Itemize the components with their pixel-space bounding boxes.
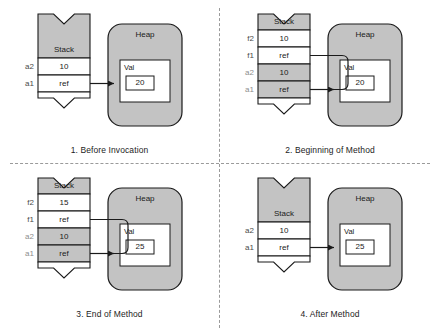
panel-caption: 1. Before Invocation [0, 145, 219, 155]
panel-before-invocation: StackHeapVal20a210a1ref1. Before Invocat… [0, 8, 219, 163]
heap-title: Heap [108, 30, 182, 39]
frame-label-f2: f2 [232, 34, 254, 43]
stack-title: Stack [258, 209, 310, 218]
frame-label-f1: f1 [232, 51, 254, 60]
panel-caption: 2. Beginning of Method [220, 145, 440, 155]
object-value: 25 [126, 242, 154, 251]
object-value: 20 [346, 78, 374, 87]
frame-label-a1: a1 [232, 243, 254, 252]
object-title: Val [344, 227, 354, 236]
frame-label-a2: a2 [232, 68, 254, 77]
stack-title: Stack [38, 45, 90, 54]
horizontal-divider [10, 163, 430, 164]
heap-title: Heap [328, 30, 402, 39]
object-value: 20 [126, 78, 154, 87]
object-title: Val [344, 63, 354, 72]
frame-label-a1: a1 [12, 249, 34, 258]
frame-label-a2: a2 [12, 232, 34, 241]
frame-value-a1: ref [258, 243, 310, 252]
frame-value-a1: ref [258, 85, 310, 94]
figure-canvas: StackHeapVal20a210a1ref1. Before Invocat… [0, 0, 440, 332]
frame-label-a1: a1 [232, 85, 254, 94]
frame-value-f1: ref [258, 51, 310, 60]
heap-title: Heap [108, 194, 182, 203]
stack-title: Stack [38, 181, 90, 190]
panel-caption: 4. After Method [220, 309, 440, 319]
frame-label-a2: a2 [232, 226, 254, 235]
frame-value-f2: 10 [258, 34, 310, 43]
frame-value-f2: 15 [38, 198, 90, 207]
object-title: Val [124, 227, 134, 236]
frame-label-f2: f2 [12, 198, 34, 207]
frame-value-a2: 10 [38, 62, 90, 71]
panel-caption: 3. End of Method [0, 309, 219, 319]
frame-value-f1: ref [38, 215, 90, 224]
panel-end-of-method: StackHeapVal25f215f1refa210a1ref3. End o… [0, 172, 219, 327]
heap-title: Heap [328, 194, 402, 203]
frame-value-a2: 10 [38, 232, 90, 241]
frame-value-a1: ref [38, 79, 90, 88]
panel-beginning-of-method: StackHeapVal20f210f1refa210a1ref2. Begin… [220, 8, 440, 163]
frame-label-f1: f1 [12, 215, 34, 224]
frame-label-a1: a1 [12, 79, 34, 88]
frame-label-a2: a2 [12, 62, 34, 71]
stack-title: Stack [258, 17, 310, 26]
frame-value-a2: 10 [258, 226, 310, 235]
object-title: Val [124, 63, 134, 72]
frame-value-a1: ref [38, 249, 90, 258]
panel-after-method: StackHeapVal25a210a1ref4. After Method [220, 172, 440, 327]
object-value: 25 [346, 242, 374, 251]
frame-value-a2: 10 [258, 68, 310, 77]
